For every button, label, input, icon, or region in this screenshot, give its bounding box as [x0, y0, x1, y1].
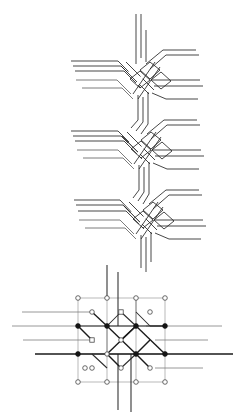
vertical-bundle-2-3 [133, 162, 149, 204]
vertical-exit-bottom [141, 232, 151, 272]
crossing-cluster-2 [71, 120, 204, 169]
lattice-right-leads [146, 326, 233, 368]
vertical-feed-top [136, 14, 146, 64]
crossing-cluster-1 [71, 50, 203, 99]
lower-lattice-panel [12, 265, 233, 412]
technical-diagram-svg [0, 0, 252, 416]
upper-braid-panel [71, 14, 206, 272]
figure-root [0, 0, 252, 416]
lattice-left-leads [12, 312, 92, 354]
vertical-bundle-1-2 [131, 92, 148, 134]
